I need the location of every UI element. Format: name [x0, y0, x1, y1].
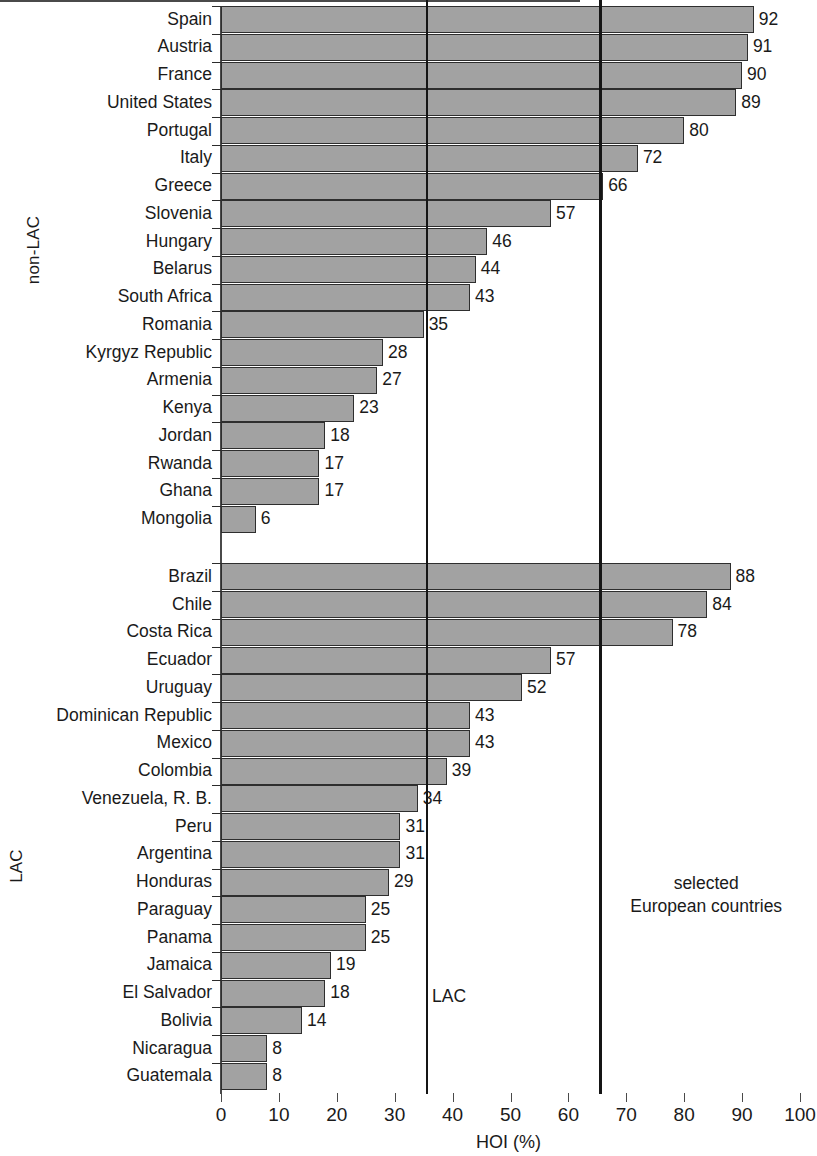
bar [221, 1007, 302, 1034]
x-axis-tick [279, 1093, 280, 1102]
y-axis-tick [212, 34, 221, 35]
y-axis-tick [212, 841, 221, 842]
y-axis-tick [212, 117, 221, 118]
bar-value-label: 19 [331, 957, 355, 975]
category-label: United States [107, 94, 221, 112]
category-label: Brazil [168, 568, 221, 586]
x-axis-tick-label: 80 [674, 1104, 695, 1126]
bar-row: Costa Rica78 [0, 619, 817, 646]
chart-figure: non-LAC LAC Spain92Austria91France90Unit… [0, 0, 817, 1156]
y-axis-tick [212, 563, 221, 564]
bar-row: Kenya23 [0, 395, 817, 422]
bar [221, 702, 470, 729]
bar-row: Panama25 [0, 924, 817, 951]
bar [221, 450, 319, 477]
y-axis-tick [212, 674, 221, 675]
bar-row: Portugal80 [0, 117, 817, 144]
reference-line-lac [426, 0, 429, 1094]
bar-value-label: 66 [603, 177, 627, 195]
bar [221, 395, 354, 422]
category-label: South Africa [118, 288, 221, 306]
category-label: Spain [167, 11, 221, 29]
bar-row: Slovenia57 [0, 200, 817, 227]
y-axis-tick [212, 228, 221, 229]
bar-row: Brazil88 [0, 563, 817, 590]
category-label: Portugal [147, 122, 221, 140]
european-countries-annotation-line-1: selected [608, 872, 804, 895]
x-axis-tick [221, 1093, 222, 1102]
bar-row: Mongolia6 [0, 506, 817, 533]
bar [221, 758, 447, 785]
category-label: Mexico [157, 735, 221, 753]
x-axis-tick [684, 1093, 685, 1102]
x-axis-tick [395, 1093, 396, 1102]
bar-value-label: 28 [383, 344, 407, 362]
y-axis-tick [212, 924, 221, 925]
european-countries-annotation-line-2: European countries [608, 895, 804, 918]
y-axis-tick [212, 702, 221, 703]
bar [221, 619, 673, 646]
bar-row: Peru31 [0, 813, 817, 840]
y-axis-tick [212, 311, 221, 312]
x-axis-tick-label: 60 [558, 1104, 579, 1126]
category-label: Romania [142, 316, 221, 334]
x-axis-title-text: HOI (%) [476, 1132, 541, 1153]
bar-row: Italy72 [0, 145, 817, 172]
bar-value-label: 31 [400, 818, 424, 836]
category-label: Colombia [138, 762, 221, 780]
bar [221, 869, 389, 896]
bar [221, 813, 400, 840]
bar [221, 145, 638, 172]
y-axis-tick [212, 256, 221, 257]
category-label: Belarus [153, 261, 221, 279]
category-label: Kyrgyz Republic [86, 344, 221, 362]
bar-row: France90 [0, 62, 817, 89]
category-label: Costa Rica [126, 624, 221, 642]
bar-row: Ghana17 [0, 478, 817, 505]
x-axis-tick-label: 30 [384, 1104, 405, 1126]
y-axis-tick [212, 758, 221, 759]
x-axis-title: HOI (%) [0, 1132, 817, 1153]
bar [221, 478, 319, 505]
y-axis-tick [212, 647, 221, 648]
category-label: Mongolia [141, 510, 221, 528]
bar-value-label: 90 [742, 66, 766, 84]
category-label: Chile [172, 596, 221, 614]
bar-value-label: 88 [731, 568, 755, 586]
y-axis-tick [212, 145, 221, 146]
category-label: El Salvador [123, 984, 222, 1002]
x-axis-tick-label: 50 [500, 1104, 521, 1126]
y-axis-tick [212, 422, 221, 423]
plot-area: Spain92Austria91France90United States89P… [0, 0, 817, 1095]
bar-row: Chile84 [0, 591, 817, 618]
category-label: Venezuela, R. B. [82, 790, 221, 808]
y-axis-tick [212, 1007, 221, 1008]
bar [221, 896, 366, 923]
category-label: Paraguay [137, 901, 221, 919]
category-label: Hungary [146, 233, 221, 251]
bar-value-label: 72 [638, 150, 662, 168]
bar [221, 591, 707, 618]
bar-value-label: 8 [267, 1068, 282, 1086]
x-axis-tick-label: 70 [616, 1104, 637, 1126]
y-axis-tick [212, 1035, 221, 1036]
bar-row: Guatemala8 [0, 1063, 817, 1090]
x-axis-tick [568, 1093, 569, 1102]
bar-value-label: 52 [522, 679, 546, 697]
bar-value-label: 57 [551, 651, 575, 669]
bar-row: Uruguay52 [0, 674, 817, 701]
bar-row: Hungary46 [0, 228, 817, 255]
x-axis-tick-label: 0 [216, 1104, 227, 1126]
bar [221, 339, 383, 366]
bar-value-label: 78 [673, 624, 697, 642]
bar-value-label: 6 [256, 510, 271, 528]
category-label: Honduras [136, 873, 221, 891]
x-axis-tick [337, 1093, 338, 1102]
y-axis-tick [212, 339, 221, 340]
bar [221, 924, 366, 951]
x-axis-tick [742, 1093, 743, 1102]
bar-row: Argentina31 [0, 841, 817, 868]
y-axis-tick [212, 506, 221, 507]
y-axis-tick [212, 89, 221, 90]
y-axis-tick [212, 450, 221, 451]
